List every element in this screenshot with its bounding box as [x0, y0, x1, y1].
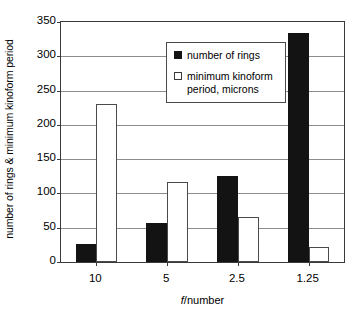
bar-period-1.25 [309, 247, 330, 262]
bar-rings-2.5 [217, 176, 238, 262]
x-axis-tick-label: 10 [89, 272, 102, 284]
x-axis-tick-mark [238, 262, 239, 266]
y-axis-tick-mark [57, 228, 61, 229]
x-axis-tick-mark [167, 262, 168, 266]
bar-period-10 [96, 104, 117, 262]
y-axis-tick-label: 100 [22, 187, 56, 199]
legend-item-number-of-rings: number of rings [174, 49, 278, 61]
y-axis-tick-label: 0 [22, 255, 56, 267]
y-axis-tick-mark [57, 159, 61, 160]
y-axis-tick-label: 300 [22, 50, 56, 62]
x-axis-tick-mark [309, 262, 310, 266]
y-axis-tick-label: 150 [22, 152, 56, 164]
y-axis-tick-label: 350 [22, 15, 56, 27]
y-axis-tick-mark [57, 56, 61, 57]
y-axis-tick-label: 250 [22, 84, 56, 96]
y-axis-title-text: number of rings & minimum kinoform perio… [3, 39, 15, 239]
bar-chart: number of rings & minimum kinoform perio… [0, 0, 356, 322]
filled-square-icon [174, 51, 182, 59]
legend-item-minimum-kinoform-period: minimum kinoform period, microns [174, 70, 278, 95]
x-axis-tick-mark [96, 262, 97, 266]
bar-rings-5 [146, 223, 167, 262]
x-axis-title: f/number [60, 294, 345, 306]
x-axis-tick-labels: 1052.51.25 [60, 272, 345, 288]
bar-period-5 [167, 182, 188, 262]
y-axis-tick-labels: 050100150200250300350 [18, 0, 56, 322]
x-axis-title-rest: /number [184, 294, 224, 306]
bar-period-2.5 [238, 217, 259, 262]
legend-label-number-of-rings: number of rings [187, 49, 260, 61]
legend: number of rings minimum kinoform period,… [166, 42, 286, 103]
y-axis-tick-mark [57, 125, 61, 126]
x-axis-tick-label: 2.5 [229, 272, 245, 284]
y-axis-tick-mark [57, 22, 61, 23]
bar-rings-10 [76, 244, 97, 263]
x-axis-tick-label: 5 [163, 272, 169, 284]
y-axis-tick-label: 50 [22, 221, 56, 233]
y-axis-tick-mark [57, 91, 61, 92]
x-axis-tick-label: 1.25 [296, 272, 318, 284]
bar-rings-1.25 [288, 33, 309, 262]
open-square-icon [174, 72, 182, 80]
y-axis-tick-label: 200 [22, 118, 56, 130]
y-axis-tick-mark [57, 262, 61, 263]
legend-label-minimum-kinoform-period: minimum kinoform period, microns [187, 70, 273, 95]
y-axis-tick-mark [57, 193, 61, 194]
y-axis-title: number of rings & minimum kinoform perio… [2, 0, 16, 278]
